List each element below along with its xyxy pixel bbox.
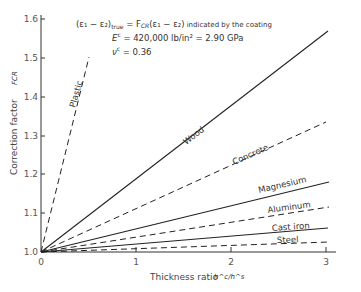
svg-text:Cast iron: Cast iron [271, 220, 309, 233]
svg-text:2: 2 [228, 257, 234, 267]
svg-text:Magnesium: Magnesium [257, 174, 307, 195]
x-tick-labels: 0 1 2 3 [38, 257, 329, 267]
svg-text:Concrete: Concrete [231, 142, 270, 167]
svg-text:(ε₁ − ε₂)true = FCR(ε₁ − ε₂) i: (ε₁ − ε₂)true = FCR(ε₁ − ε₂) indicated b… [76, 19, 272, 30]
svg-text:1.2: 1.2 [24, 169, 38, 179]
svg-text:3: 3 [323, 257, 329, 267]
svg-text:1.1: 1.1 [24, 208, 38, 218]
svg-text:1.4: 1.4 [24, 92, 39, 102]
y-tick-labels: 1.0 1.1 1.2 1.3 1.4 1.5 1.6 [24, 14, 39, 257]
svg-text:Thickness ratio: Thickness ratio [149, 272, 219, 282]
svg-text:Wood: Wood [181, 124, 206, 146]
y-ticks [41, 19, 45, 252]
svg-text:Aluminum: Aluminum [267, 199, 311, 215]
svg-text:1: 1 [133, 257, 139, 267]
x-axis-title: Thickness ratio h^c/h^s [149, 272, 245, 282]
svg-text:FCR: FCR [11, 71, 19, 85]
correction-factor-chart: 1.0 1.1 1.2 1.3 1.4 1.5 1.6 0 1 2 3 Thic… [0, 0, 361, 292]
svg-text:Steel: Steel [277, 234, 299, 245]
svg-text:Plastic: Plastic [67, 79, 84, 108]
formula-annotation: (ε₁ − ε₂)true = FCR(ε₁ − ε₂) indicated b… [76, 19, 272, 57]
svg-text:1.0: 1.0 [24, 247, 39, 257]
svg-text:Ec = 420,000 lb/in² = 2.90 GP: Ec = 420,000 lb/in² = 2.90 GPa [112, 31, 244, 43]
svg-text:0: 0 [38, 257, 44, 267]
y-axis-title: Correction factor FCR [9, 71, 19, 175]
series-labels: Plastic Wood Concrete Magnesium Aluminum… [67, 79, 311, 245]
svg-text:h^c/h^s: h^c/h^s [214, 273, 245, 281]
svg-text:νc = 0.36: νc = 0.36 [112, 45, 152, 57]
svg-text:1.5: 1.5 [24, 53, 38, 63]
svg-text:1.6: 1.6 [24, 14, 39, 24]
svg-text:Correction factor: Correction factor [9, 99, 19, 175]
svg-text:1.3: 1.3 [24, 131, 38, 141]
